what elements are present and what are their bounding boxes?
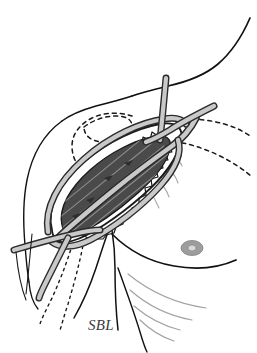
surgical-illustration: SBL [0, 0, 257, 353]
label-sbl: SBL [88, 317, 114, 333]
areola-center [188, 245, 196, 251]
areola-marker [181, 241, 203, 256]
figure-root: SBL [0, 0, 257, 353]
